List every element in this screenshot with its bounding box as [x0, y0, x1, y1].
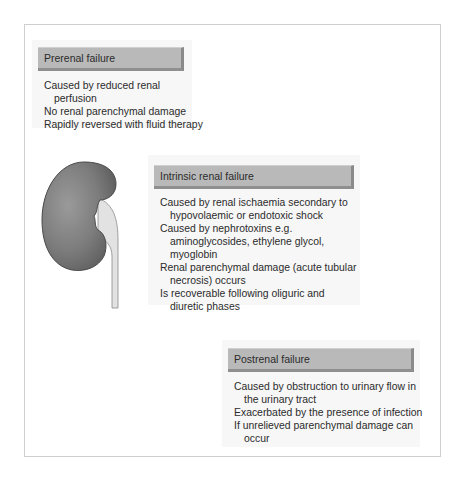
prerenal-panel: Prerenal failure Caused by reduced renal…	[32, 40, 192, 128]
prerenal-list: Caused by reduced renal perfusion No ren…	[44, 79, 204, 131]
list-item: Caused by nephrotoxins e.g. aminoglycosi…	[160, 222, 360, 261]
intrinsic-panel: Intrinsic renal failure Caused by renal …	[148, 155, 360, 305]
list-item: Caused by reduced renal perfusion	[44, 79, 204, 105]
list-item: Renal parenchymal damage (acute tubular …	[160, 261, 360, 287]
postrenal-list: Caused by obstruction to urinary flow in…	[234, 380, 424, 445]
postrenal-panel: Postrenal failure Caused by obstruction …	[222, 340, 420, 447]
postrenal-panel-title: Postrenal failure	[228, 348, 414, 372]
intrinsic-panel-title: Intrinsic renal failure	[154, 165, 354, 189]
list-item: Caused by renal ischaemia secondary to h…	[160, 196, 360, 222]
list-item: Caused by obstruction to urinary flow in…	[234, 380, 424, 406]
kidney-illustration	[36, 160, 136, 310]
list-item: Exacerbated by the presence of infection	[234, 406, 424, 419]
list-item: If unrelieved parenchymal damage can occ…	[234, 419, 424, 445]
prerenal-panel-title: Prerenal failure	[38, 47, 184, 71]
list-item: Rapidly reversed with fluid therapy	[44, 118, 204, 131]
list-item: Is recoverable following oliguric and di…	[160, 287, 360, 313]
list-item: No renal parenchymal damage	[44, 105, 204, 118]
intrinsic-list: Caused by renal ischaemia secondary to h…	[160, 196, 360, 313]
